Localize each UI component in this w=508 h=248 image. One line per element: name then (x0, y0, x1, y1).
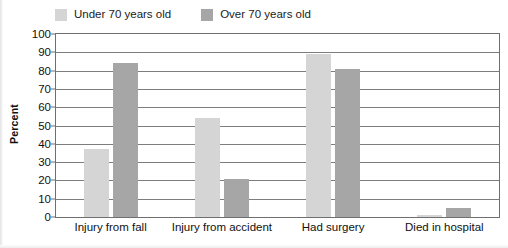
y-axis-title: Percent (8, 89, 20, 159)
legend-item-under-70: Under 70 years old (55, 9, 171, 21)
y-tick-label: 30 (38, 156, 51, 168)
legend-swatch-icon-over-70 (201, 9, 213, 21)
legend-label-under-70: Under 70 years old (74, 9, 171, 21)
y-tick-label: 50 (38, 120, 51, 132)
bar (224, 179, 249, 217)
bar (306, 54, 331, 217)
x-axis-label: Injury from fall (55, 221, 166, 233)
bar (195, 118, 220, 217)
bar-group (56, 34, 167, 217)
x-axis-labels: Injury from fallInjury from accidentHad … (55, 221, 500, 233)
legend-item-over-70: Over 70 years old (201, 9, 311, 21)
bar (335, 69, 360, 217)
legend-label-over-70: Over 70 years old (220, 9, 311, 21)
chart-legend: Under 70 years old Over 70 years old (55, 6, 311, 24)
bar-chart-figure: Under 70 years old Over 70 years old Per… (0, 0, 508, 248)
y-tick-label: 60 (38, 101, 51, 113)
x-axis-label: Died in hospital (389, 221, 500, 233)
y-tick-label: 90 (38, 46, 51, 58)
bar (84, 149, 109, 217)
x-axis-label: Had surgery (278, 221, 389, 233)
y-tick-label: 80 (38, 65, 51, 77)
plot-area: 1009080706050403020100 (55, 33, 500, 218)
bar (113, 63, 138, 217)
bar-group (278, 34, 389, 217)
bar-group (167, 34, 278, 217)
y-tick-label: 40 (38, 138, 51, 150)
x-axis-label: Injury from accident (166, 221, 277, 233)
scan-edge-left (0, 0, 3, 248)
y-tick-label: 20 (38, 174, 51, 186)
bars-layer (56, 34, 499, 217)
legend-swatch-icon-under-70 (55, 9, 67, 21)
bar-group (388, 34, 499, 217)
y-tick-label: 0 (45, 211, 51, 223)
y-tick-label: 10 (38, 193, 51, 205)
y-tick-label: 100 (32, 28, 51, 40)
bar (446, 208, 471, 217)
bar (417, 215, 442, 217)
y-tick-label: 70 (38, 83, 51, 95)
